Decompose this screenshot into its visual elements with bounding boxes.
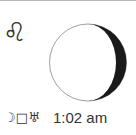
aspect-time: 1:02 am [53,109,107,127]
zodiac-sign-leo-icon: ♌ [3,17,26,47]
moon-aspect-glyphs: ☽□♅ [4,110,40,126]
moon-phase-icon [48,23,128,103]
top-divider [0,0,136,1]
